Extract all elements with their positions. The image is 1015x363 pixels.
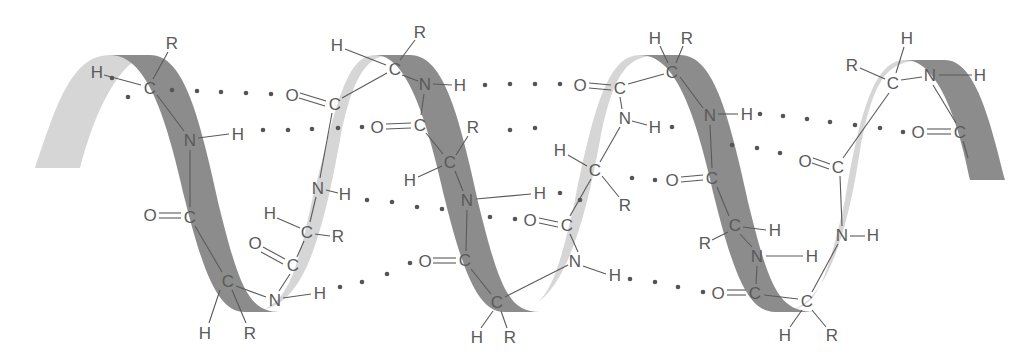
hydrogen-bond-dot — [261, 128, 266, 133]
atom-label-o: O — [573, 76, 586, 95]
hydrogen-bond-dot — [533, 82, 538, 87]
hydrogen-bond-dot — [878, 126, 883, 131]
atom-label-h: H — [867, 226, 879, 245]
atom-label-o: O — [418, 252, 431, 271]
atom-label-h: H — [554, 141, 566, 160]
atom-label-r: R — [826, 326, 838, 345]
atom-label-c: C — [801, 292, 813, 311]
atom-label-o: O — [285, 86, 298, 105]
atom-label-o: O — [665, 171, 678, 190]
atom-label-h: H — [199, 324, 211, 343]
atom-label-n: N — [269, 291, 281, 310]
atom-label-c: C — [666, 63, 678, 82]
hydrogen-bond-dot — [110, 76, 115, 81]
atom-label-n: N — [312, 179, 324, 198]
hydrogen-bond-dot — [513, 217, 518, 222]
atom-label-n: N — [704, 106, 716, 125]
hydrogen-bond-dot — [170, 88, 175, 93]
hydrogen-bond-dot — [126, 95, 131, 100]
hydrogen-bond-dot — [338, 285, 343, 290]
hydrogen-bond-dot — [336, 126, 341, 131]
atom-label-h: H — [404, 171, 416, 190]
atom-label-h: H — [806, 247, 818, 266]
hydrogen-bond-dot — [653, 178, 658, 183]
hydrogen-bond-dot — [533, 126, 538, 131]
atom-label-c: C — [222, 272, 234, 291]
atom-label-c: C — [144, 79, 156, 98]
atom-label-h: H — [649, 118, 661, 137]
hydrogen-bond-dot — [901, 130, 906, 135]
hydrogen-bond-dot — [508, 82, 513, 87]
atom-label-r: R — [166, 34, 178, 53]
atom-label-r: R — [467, 118, 479, 137]
hydrogen-bond-dot — [483, 83, 488, 88]
atom-label-n: N — [924, 66, 936, 85]
hydrogen-bond-dot — [488, 215, 493, 220]
hydrogen-bond-dot — [269, 92, 274, 97]
atom-label-r: R — [681, 29, 693, 48]
hydrogen-bond-dot — [630, 176, 635, 181]
atom-label-c: C — [589, 161, 601, 180]
hydrogen-bond-dot — [853, 123, 858, 128]
hydrogen-bond-dot — [701, 290, 706, 295]
atom-label-h: H — [314, 284, 326, 303]
atom-label-h: H — [534, 184, 546, 203]
hydrogen-bond-dot — [390, 200, 395, 205]
atom-label-h: H — [769, 221, 781, 240]
hydrogen-bond-dot — [244, 91, 249, 96]
atom-label-c: C — [729, 216, 741, 235]
hydrogen-bond-dot — [558, 82, 563, 87]
atom-label-h: H — [91, 63, 103, 82]
hydrogen-bond-dot — [670, 125, 675, 130]
hydrogen-bond-dot — [558, 191, 563, 196]
hydrogen-bond-dot — [755, 146, 760, 151]
atom-label-o: O — [523, 211, 536, 230]
atom-label-c: C — [444, 153, 456, 172]
atom-label-c: C — [459, 251, 471, 270]
hydrogen-bond-dot — [628, 277, 633, 282]
atom-label-c: C — [706, 169, 718, 188]
atom-label-o: O — [911, 123, 924, 142]
hydrogen-bond-dot — [653, 280, 658, 285]
hydrogen-bond-dot — [219, 90, 224, 95]
atom-label-c: C — [184, 208, 196, 227]
atom-label-n: N — [419, 75, 431, 94]
atom-label-o: O — [143, 206, 156, 225]
atom-label-c: C — [329, 95, 341, 114]
atom-label-c: C — [749, 284, 761, 303]
atom-label-r: R — [699, 234, 711, 253]
hydrogen-bond-dot — [805, 117, 810, 122]
atom-label-r: R — [846, 56, 858, 75]
atom-label-h: H — [331, 36, 343, 55]
hydrogen-bond-dot — [828, 120, 833, 125]
hydrogen-bond-dot — [508, 128, 513, 133]
atom-label-n: N — [619, 109, 631, 128]
atom-label-o: O — [798, 152, 811, 171]
atom-label-c: C — [301, 223, 313, 242]
hydrogen-bond-dot — [415, 205, 420, 210]
hydrogen-bond-dot — [440, 207, 445, 212]
atom-label-n: N — [836, 226, 848, 245]
hydrogen-bond-dot — [758, 112, 763, 117]
atom-label-h: H — [741, 105, 753, 124]
hydrogen-bond-dot — [408, 261, 413, 266]
atom-label-c: C — [287, 256, 299, 275]
atom-label-r: R — [504, 328, 516, 347]
atom-label-o: O — [248, 234, 261, 253]
hydrogen-bond-dot — [385, 272, 390, 277]
atom-label-c: C — [832, 158, 844, 177]
atom-label-c: C — [614, 79, 626, 98]
atom-label-n: N — [569, 252, 581, 271]
atom-label-n: N — [751, 247, 763, 266]
atom-label-r: R — [414, 23, 426, 42]
atom-label-c: C — [491, 293, 503, 312]
atom-label-n: N — [184, 131, 196, 150]
atom-label-h: H — [609, 266, 621, 285]
hydrogen-bond-dot — [360, 125, 365, 130]
atom-label-o: O — [370, 118, 383, 137]
atom-label-r: R — [619, 196, 631, 215]
atom-label-c: C — [389, 60, 401, 79]
atom-label-r: R — [244, 324, 256, 343]
hydrogen-bond-dot — [286, 128, 291, 133]
atom-label-h: H — [779, 326, 791, 345]
